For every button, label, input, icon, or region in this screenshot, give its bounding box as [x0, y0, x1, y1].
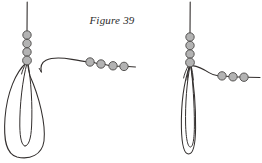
figure-illustration: Figure 39	[0, 0, 262, 163]
bead	[218, 72, 226, 80]
right-knot-diagram	[181, 2, 260, 154]
knot-diagram-canvas	[0, 0, 262, 163]
bead	[23, 31, 31, 39]
right-working-end-curve	[192, 66, 218, 76]
left-vertical-bead-group	[23, 31, 32, 65]
bead	[186, 41, 194, 49]
bead	[240, 73, 248, 81]
left-knot-diagram	[5, 2, 136, 158]
bead	[86, 58, 94, 66]
bead	[23, 39, 31, 47]
left-working-end-bead-group	[86, 58, 128, 71]
bead	[186, 33, 194, 41]
bead	[229, 73, 237, 81]
bead	[109, 62, 117, 70]
right-vertical-bead-group	[186, 33, 195, 67]
left-outer-loop	[5, 63, 45, 158]
left-inner-loop-strand-a	[20, 63, 27, 146]
bead	[186, 58, 195, 67]
bead	[23, 48, 31, 56]
bead	[120, 62, 128, 70]
left-inner-loop-strand-b	[25, 63, 32, 146]
left-working-end-curve	[41, 58, 86, 72]
bead	[97, 60, 105, 68]
bead	[23, 56, 32, 65]
bead	[186, 50, 194, 58]
right-working-end-bead-group	[218, 72, 248, 82]
